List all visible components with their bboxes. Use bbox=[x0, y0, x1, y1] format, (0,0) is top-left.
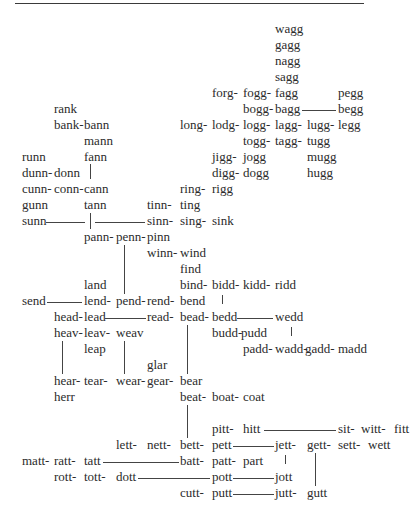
word-fagg: fagg bbox=[275, 86, 298, 100]
word-rank: rank bbox=[54, 102, 77, 116]
word-togg: togg- bbox=[243, 134, 270, 148]
word-logg: logg- bbox=[243, 118, 270, 132]
connector-bidd-bedd bbox=[222, 295, 223, 304]
word-pann: pann- bbox=[84, 230, 114, 244]
connector-wedd-wadd bbox=[291, 327, 292, 336]
word-bear: bear bbox=[180, 374, 202, 388]
word-bidd: bidd- bbox=[212, 278, 239, 292]
connector-bead-bear bbox=[187, 325, 188, 374]
word-bett: bett- bbox=[180, 438, 204, 452]
word-cunn: cunn- bbox=[22, 182, 52, 196]
word-rott: rott- bbox=[54, 470, 76, 484]
word-winn: winn- bbox=[147, 246, 177, 260]
connector-gett-gutt bbox=[315, 453, 316, 486]
word-fogg: fogg- bbox=[243, 86, 271, 100]
word-forg: forg- bbox=[212, 86, 238, 100]
word-leap: leap bbox=[84, 342, 106, 356]
word-jott: jott bbox=[275, 470, 292, 484]
word-beat: beat- bbox=[180, 390, 206, 404]
word-hitt: hitt bbox=[243, 422, 260, 436]
top-rule bbox=[15, 3, 364, 4]
word-send: send bbox=[22, 294, 46, 308]
word-pinn: pinn bbox=[147, 230, 170, 244]
word-gunn: gunn bbox=[22, 198, 48, 212]
connector-beat-bett bbox=[187, 405, 188, 438]
connector-putt-jutt bbox=[233, 494, 274, 495]
word-jett: jett- bbox=[275, 438, 296, 452]
word-batt: batt- bbox=[180, 454, 204, 468]
word-jigg: jigg- bbox=[212, 150, 237, 164]
word-bind: bind- bbox=[180, 278, 207, 292]
word-mann: mann bbox=[84, 134, 113, 148]
word-sinn: sinn- bbox=[147, 214, 173, 228]
word-sett: sett- bbox=[338, 438, 360, 452]
word-find: find bbox=[180, 262, 201, 276]
word-rigg: rigg bbox=[212, 182, 233, 196]
word-land: land bbox=[84, 278, 106, 292]
connector-sunn-sinn-right bbox=[95, 222, 145, 223]
word-wadd: wadd- bbox=[275, 342, 308, 356]
word-mugg: mugg bbox=[307, 150, 337, 164]
word-fann: fann bbox=[84, 150, 107, 164]
word-bann: bann bbox=[84, 118, 109, 132]
word-pett: pett bbox=[212, 438, 232, 452]
word-coat: coat bbox=[243, 390, 265, 404]
word-gadd: gadd- bbox=[305, 342, 335, 356]
word-leav: leav- bbox=[84, 326, 110, 340]
word-digg: digg- bbox=[212, 166, 239, 180]
word-putt: putt bbox=[212, 486, 232, 500]
word-legg: legg bbox=[338, 118, 360, 132]
word-lead: lead bbox=[84, 310, 106, 324]
connector-bagg-begg bbox=[302, 110, 336, 111]
word-lagg: lagg- bbox=[275, 118, 302, 132]
word-heav: heav- bbox=[54, 326, 83, 340]
word-cann: cann bbox=[84, 182, 109, 196]
word-dogg: dogg bbox=[243, 166, 269, 180]
word-wind: wind bbox=[180, 246, 206, 260]
connector-dott-pott bbox=[138, 478, 210, 479]
word-gagg: gagg bbox=[275, 38, 300, 52]
word-tinn: tinn- bbox=[147, 198, 172, 212]
connector-sunn-sinn-left bbox=[46, 222, 85, 223]
connector-tatt-batt bbox=[103, 462, 179, 463]
word-wett: wett bbox=[368, 438, 390, 452]
word-gett: gett- bbox=[307, 438, 331, 452]
word-ratt: ratt- bbox=[54, 454, 76, 468]
word-pott: pott bbox=[212, 470, 232, 484]
word-pegg: pegg bbox=[338, 86, 363, 100]
word-sing: sing- bbox=[180, 214, 206, 228]
word-fitt: fitt bbox=[394, 422, 409, 436]
word-pitt: pitt- bbox=[212, 422, 234, 436]
word-weav: weav bbox=[116, 326, 143, 340]
word-ring: ring- bbox=[180, 182, 205, 196]
word-ridd: ridd bbox=[275, 278, 296, 292]
word-wear: wear- bbox=[116, 374, 145, 388]
connector-fann-cann bbox=[90, 164, 91, 179]
word-tann: tann bbox=[84, 198, 106, 212]
word-conn: conn- bbox=[54, 182, 84, 196]
word-hugg: hugg bbox=[307, 166, 333, 180]
word-witt: witt- bbox=[361, 422, 386, 436]
word-bank: bank- bbox=[54, 118, 84, 132]
connector-pott-jott bbox=[233, 478, 274, 479]
word-lugg: lugg- bbox=[307, 118, 334, 132]
word-begg: begg bbox=[338, 102, 363, 116]
word-donn: donn bbox=[54, 166, 80, 180]
connector-weav-wear bbox=[124, 341, 125, 374]
connector-jett-jott bbox=[285, 455, 286, 464]
connector-lead-read bbox=[105, 318, 146, 319]
connector-penn-pend bbox=[124, 245, 125, 294]
word-tott: tott- bbox=[84, 470, 106, 484]
word-hear: hear- bbox=[54, 374, 80, 388]
word-herr: herr bbox=[54, 390, 75, 404]
word-wagg: wagg bbox=[275, 22, 303, 36]
word-cutt: cutt- bbox=[180, 486, 204, 500]
word-lend: lend- bbox=[84, 294, 111, 308]
word-wedd: wedd bbox=[275, 310, 303, 324]
word-nagg: nagg bbox=[275, 54, 300, 68]
word-lett: lett- bbox=[116, 438, 137, 452]
word-read: read- bbox=[147, 310, 174, 324]
word-madd: madd bbox=[338, 342, 367, 356]
word-bead: bead- bbox=[180, 310, 209, 324]
connector-pett-jett bbox=[233, 446, 274, 447]
